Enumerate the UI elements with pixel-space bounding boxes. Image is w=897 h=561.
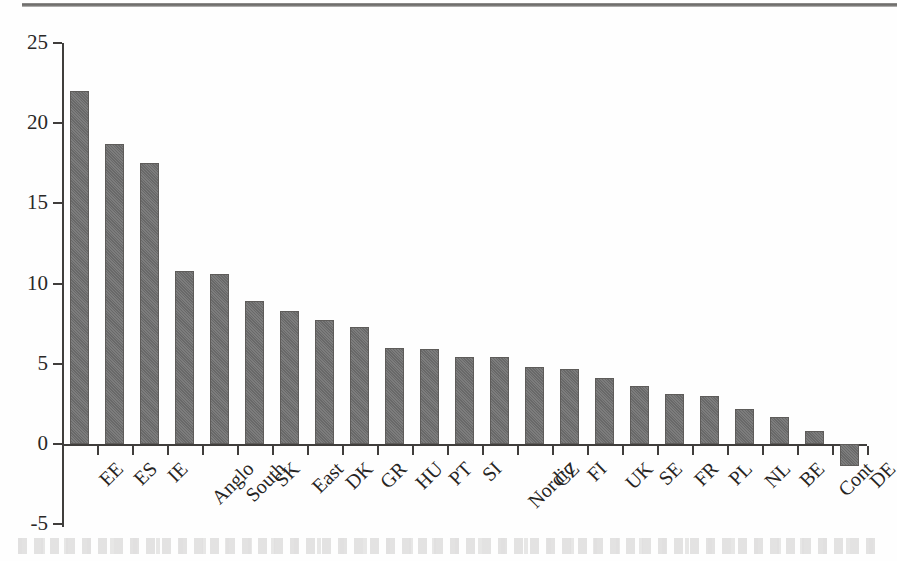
x-axis-tick: [307, 446, 309, 455]
bar: [665, 394, 684, 444]
x-axis-label: ES: [129, 458, 160, 489]
x-axis-label: FI: [583, 458, 610, 485]
y-axis-tick-label: -5: [2, 513, 48, 534]
bar: [525, 367, 544, 444]
x-axis-tick: [552, 446, 554, 455]
y-axis-tick-label: 10: [2, 273, 48, 294]
x-axis-tick: [797, 446, 799, 455]
x-axis-tick: [97, 446, 99, 455]
x-axis-label: PL: [724, 458, 755, 489]
y-axis-tick-label: 20: [2, 112, 48, 133]
y-axis-tick-label: 5: [2, 353, 48, 374]
bar: [420, 349, 439, 444]
x-axis-label: DE: [865, 458, 897, 491]
bar: [210, 274, 229, 444]
x-axis-label: GR: [376, 458, 410, 492]
x-axis-tick: [237, 446, 239, 455]
x-axis-tick: [657, 446, 659, 455]
chart-page: 2520151050-5 EEESIEAngloSouthSKEastDKGRH…: [0, 0, 897, 561]
y-axis-tick-label: 0: [2, 433, 48, 454]
y-axis-tick: [53, 42, 62, 44]
bar: [455, 357, 474, 444]
bar: [560, 369, 579, 444]
bar: [315, 320, 334, 444]
bar: [245, 301, 264, 444]
x-axis-tick: [62, 446, 64, 455]
x-axis-label: PT: [444, 458, 475, 489]
bar-chart-plot-area: 2520151050-5 EEESIEAngloSouthSKEastDKGRH…: [0, 0, 897, 561]
x-axis-tick: [202, 446, 204, 455]
x-axis-tick: [167, 446, 169, 455]
y-axis-tick: [53, 202, 62, 204]
y-axis-tick: [53, 283, 62, 285]
bar: [805, 431, 824, 444]
bar: [280, 311, 299, 444]
bar: [140, 163, 159, 444]
bar: [175, 271, 194, 444]
bar: [490, 357, 509, 444]
x-axis-tick: [412, 446, 414, 455]
bar: [770, 417, 789, 444]
bar: [700, 396, 719, 444]
x-axis-tick: [622, 446, 624, 455]
y-axis-tick-label: 25: [2, 32, 48, 53]
bar: [70, 91, 89, 444]
x-axis-label: HU: [411, 458, 446, 493]
x-axis-tick: [727, 446, 729, 455]
x-axis-tick: [832, 446, 834, 455]
x-axis-tick: [587, 446, 589, 455]
y-axis-tick: [53, 523, 62, 525]
y-axis-tick: [53, 443, 62, 445]
bar: [350, 327, 369, 444]
x-axis-label: UK: [621, 458, 656, 493]
x-axis-label: SI: [478, 458, 505, 485]
x-axis-tick: [447, 446, 449, 455]
x-axis-tick: [482, 446, 484, 455]
x-axis-label: NL: [760, 458, 793, 491]
x-axis-label: BE: [795, 458, 827, 490]
x-axis-label: DK: [341, 458, 376, 493]
x-axis-label: SE: [654, 458, 685, 489]
x-axis-tick: [517, 446, 519, 455]
x-axis-label: EE: [95, 458, 126, 489]
bar: [595, 378, 614, 444]
x-axis-tick: [762, 446, 764, 455]
x-axis-tick: [692, 446, 694, 455]
y-axis-tick: [53, 363, 62, 365]
bar: [105, 144, 124, 444]
x-axis-label: FR: [690, 458, 721, 489]
x-axis-tick: [867, 446, 869, 455]
x-axis-tick: [377, 446, 379, 455]
bar: [385, 348, 404, 444]
y-axis-tick: [53, 122, 62, 124]
y-axis-tick-label: 15: [2, 192, 48, 213]
x-axis-tick: [272, 446, 274, 455]
bar: [735, 409, 754, 444]
x-axis-tick: [342, 446, 344, 455]
x-axis-label: IE: [163, 458, 190, 485]
x-axis-tick: [132, 446, 134, 455]
x-axis-line: [62, 444, 867, 446]
bar: [630, 386, 649, 444]
